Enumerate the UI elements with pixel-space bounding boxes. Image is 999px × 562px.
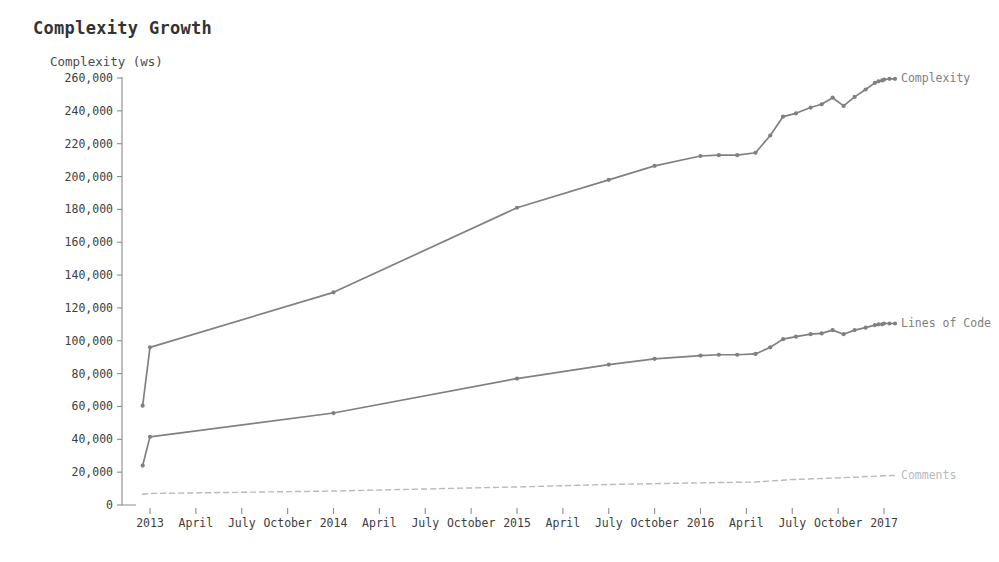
data-point-marker — [331, 290, 335, 294]
series-label: Complexity — [901, 71, 970, 85]
chart-container: Complexity Growth Complexity (ws) 020,00… — [0, 0, 999, 562]
y-tick-label: 0 — [106, 498, 113, 512]
data-point-marker — [887, 321, 891, 325]
series-line — [143, 475, 895, 494]
data-point-marker — [893, 77, 897, 81]
data-point-marker — [148, 435, 152, 439]
data-point-marker — [876, 322, 880, 326]
data-point-marker — [515, 376, 519, 380]
data-point-marker — [820, 331, 824, 335]
data-point-marker — [842, 104, 846, 108]
x-tick-label: April — [729, 516, 764, 530]
data-point-marker — [864, 87, 868, 91]
data-point-marker — [141, 463, 145, 467]
data-point-marker — [853, 95, 857, 99]
x-tick-label: July — [411, 516, 439, 530]
data-point-marker — [831, 96, 835, 100]
y-tick-label: 20,000 — [71, 465, 113, 479]
data-point-marker — [873, 323, 877, 327]
data-point-marker — [893, 321, 897, 325]
data-point-marker — [515, 206, 519, 210]
data-point-marker — [141, 404, 145, 408]
y-tick-label: 260,000 — [65, 71, 114, 85]
data-point-marker — [607, 178, 611, 182]
data-point-marker — [331, 411, 335, 415]
data-point-marker — [717, 153, 721, 157]
data-point-marker — [882, 78, 886, 82]
data-point-marker — [148, 345, 152, 349]
y-tick-label: 140,000 — [65, 268, 114, 282]
y-tick-label: 40,000 — [71, 432, 113, 446]
data-point-marker — [768, 133, 772, 137]
data-point-marker — [809, 332, 813, 336]
x-tick-label: October — [263, 516, 312, 530]
data-point-marker — [735, 353, 739, 357]
data-point-marker — [864, 326, 868, 330]
y-tick-label: 80,000 — [71, 367, 113, 381]
y-tick-label: 240,000 — [65, 104, 114, 118]
x-tick-label: 2013 — [136, 516, 164, 530]
y-tick-label: 160,000 — [65, 235, 114, 249]
series-line — [143, 79, 895, 406]
y-tick-label: 100,000 — [65, 334, 114, 348]
data-point-marker — [698, 353, 702, 357]
x-tick-label: 2017 — [870, 516, 898, 530]
series-label-group: ComplexityLines of CodeComments — [901, 71, 991, 482]
series-group — [141, 77, 898, 495]
y-tick-label: 120,000 — [65, 301, 114, 315]
axis-lines — [122, 77, 136, 505]
data-point-marker — [607, 362, 611, 366]
data-point-marker — [876, 79, 880, 83]
series-label: Lines of Code — [901, 316, 991, 330]
y-axis-tick-group: 020,00040,00060,00080,000100,000120,0001… — [65, 71, 122, 512]
x-tick-label: July — [778, 516, 806, 530]
x-axis-tick-group: 2013AprilJulyOctober2014AprilJulyOctober… — [136, 508, 898, 530]
data-point-marker — [698, 154, 702, 158]
data-point-marker — [882, 321, 886, 325]
y-tick-label: 200,000 — [65, 170, 114, 184]
data-point-marker — [653, 164, 657, 168]
data-point-marker — [753, 151, 757, 155]
y-tick-label: 180,000 — [65, 202, 114, 216]
x-tick-label: 2014 — [320, 516, 348, 530]
series-line — [143, 324, 895, 466]
x-tick-label: April — [546, 516, 581, 530]
data-point-marker — [781, 337, 785, 341]
data-point-marker — [794, 335, 798, 339]
data-point-marker — [842, 332, 846, 336]
x-tick-label: October — [814, 516, 863, 530]
data-point-marker — [717, 353, 721, 357]
x-tick-label: April — [362, 516, 397, 530]
data-point-marker — [781, 114, 785, 118]
line-chart-plot: 020,00040,00060,00080,000100,000120,0001… — [0, 0, 999, 562]
x-tick-label: July — [595, 516, 623, 530]
x-tick-label: 2016 — [687, 516, 715, 530]
x-tick-label: April — [179, 516, 214, 530]
data-point-marker — [831, 328, 835, 332]
data-point-marker — [887, 77, 891, 81]
y-tick-label: 220,000 — [65, 137, 114, 151]
data-point-marker — [873, 81, 877, 85]
x-tick-label: July — [228, 516, 256, 530]
x-tick-label: October — [630, 516, 679, 530]
data-point-marker — [794, 111, 798, 115]
data-point-marker — [735, 153, 739, 157]
x-tick-label: October — [447, 516, 496, 530]
data-point-marker — [809, 105, 813, 109]
series-label: Comments — [901, 468, 956, 482]
data-point-marker — [653, 357, 657, 361]
data-point-marker — [753, 352, 757, 356]
y-tick-label: 60,000 — [71, 399, 113, 413]
data-point-marker — [820, 102, 824, 106]
x-tick-label: 2015 — [503, 516, 531, 530]
data-point-marker — [768, 345, 772, 349]
data-point-marker — [853, 328, 857, 332]
